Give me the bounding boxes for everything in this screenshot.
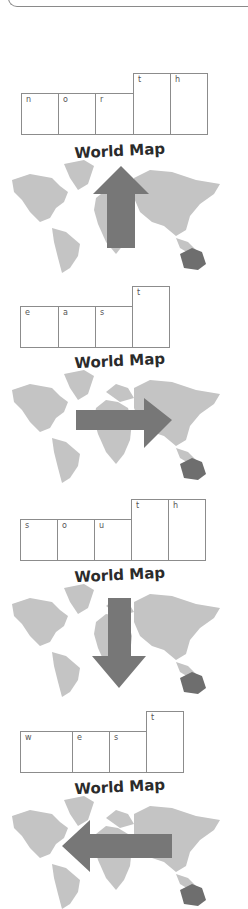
letter-box[interactable]: o [58,93,96,135]
letter-hint: e [25,308,30,318]
letter-hint: h [173,501,178,511]
letter-box[interactable]: s [20,519,58,561]
letter-hint: e [77,733,82,743]
letter-box[interactable]: u [94,519,132,561]
letter-hint: w [25,733,32,743]
map-title: World Map [74,776,166,799]
letter-box[interactable]: s [109,731,147,773]
page-frame-border [8,0,248,7]
letter-hint: u [99,521,104,531]
letter-box[interactable]: a [58,306,96,348]
letter-box-tall[interactable]: t [133,73,171,135]
letter-box[interactable]: r [95,93,134,135]
letter-hint: o [62,521,67,531]
australia-shape [180,248,206,270]
map-title: World Map [74,140,166,163]
letter-box[interactable]: s [95,306,133,348]
world-map-north: World Map [0,138,240,273]
letter-hint: t [136,501,139,511]
letter-box-tall[interactable]: t [131,499,169,561]
letter-hint: t [138,75,141,85]
letter-hint: t [137,288,140,298]
letter-box-tall[interactable]: h [168,499,206,561]
letter-hint: o [63,95,68,105]
world-map-south: World Map [0,562,240,697]
letter-box-tall[interactable]: t [146,711,184,773]
letter-box[interactable]: e [20,306,59,348]
letter-box[interactable]: w [20,731,73,773]
world-map-east: World Map [0,348,240,483]
letter-box-tall[interactable]: t [132,286,170,348]
letter-hint: h [175,75,180,85]
letter-hint: r [100,95,103,105]
letter-hint: s [114,733,118,743]
letter-box[interactable]: n [21,93,59,135]
letter-box-tall[interactable]: h [170,73,208,135]
letter-hint: a [63,308,68,318]
map-title: World Map [74,350,166,373]
letter-hint: s [100,308,104,318]
letter-box[interactable]: e [72,731,110,773]
map-title: World Map [74,564,166,587]
letter-hint: s [25,521,29,531]
letter-hint: t [151,713,154,723]
letter-hint: n [26,95,31,105]
letter-box[interactable]: o [57,519,95,561]
world-map-west: World Map [0,774,240,909]
